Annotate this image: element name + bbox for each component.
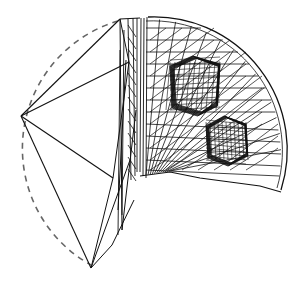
upper-cube-inclusion (166, 56, 220, 116)
coarse-mesh (21, 17, 147, 268)
mesh-drawing (0, 0, 297, 288)
wireframe-figure (0, 0, 297, 288)
dashed-sphere-outline (22, 21, 118, 265)
